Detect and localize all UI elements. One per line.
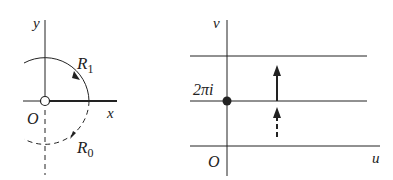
origin-label: O xyxy=(27,110,39,127)
contour-r0-label: R0 xyxy=(76,138,93,160)
v-axis-label: v xyxy=(213,15,220,31)
image-r1-arrow-icon xyxy=(273,65,281,76)
origin-label-right: O xyxy=(208,153,220,170)
point-2pi-i xyxy=(223,97,232,106)
contour-r1-label: R1 xyxy=(76,54,93,76)
diagram-canvas: y x O R1 R0 v u O 2πi xyxy=(0,0,393,180)
x-axis-label: x xyxy=(106,105,114,121)
origin-point-hollow xyxy=(41,97,50,106)
y-axis-label: y xyxy=(31,15,40,31)
right-panel: v u O 2πi xyxy=(190,15,380,176)
image-r0-arrow-icon xyxy=(273,107,281,118)
u-axis-label: u xyxy=(372,150,380,166)
contour-r0-arrow-icon xyxy=(70,131,76,139)
point-2pi-i-label: 2πi xyxy=(193,81,213,98)
left-panel: y x O R1 R0 xyxy=(23,15,117,175)
